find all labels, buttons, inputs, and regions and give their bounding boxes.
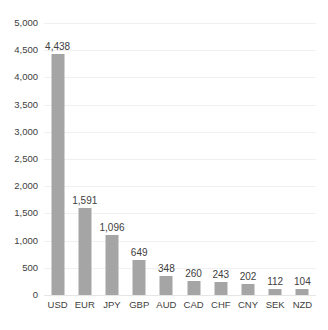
- y-axis-tick-label: 5,000: [0, 18, 38, 28]
- bar-rect: [242, 284, 255, 295]
- bar-item: 1,096: [99, 23, 125, 295]
- x-axis-tick-label: EUR: [72, 299, 98, 311]
- bar-item: 260: [181, 23, 207, 295]
- bar-value-label: 1,096: [99, 222, 124, 233]
- y-axis-tick-label: 500: [0, 263, 38, 273]
- bar-value-label: 202: [240, 271, 257, 282]
- x-axis-tick-label: CAD: [181, 299, 207, 311]
- x-axis-tick-label: JPY: [99, 299, 125, 311]
- bar-rect: [106, 235, 119, 295]
- bar-item: 649: [126, 23, 152, 295]
- bar-rect: [51, 54, 64, 295]
- x-axis-tick-label: NZD: [289, 299, 315, 311]
- bar-item: 4,438: [45, 23, 71, 295]
- bar-item: 202: [235, 23, 261, 295]
- x-axis-tick-label: SEK: [262, 299, 288, 311]
- bar-value-label: 649: [131, 247, 148, 258]
- plot-area: 4,4381,5911,096649348260243202112104: [44, 23, 316, 295]
- bar-item: 112: [262, 23, 288, 295]
- y-axis-tick-label: 0: [0, 290, 38, 300]
- y-axis-tick-label: 1,000: [0, 236, 38, 246]
- y-axis-tick-label: 3,500: [0, 100, 38, 110]
- y-axis-tick-label: 2,000: [0, 181, 38, 191]
- y-axis-tick-label: 4,500: [0, 45, 38, 55]
- bar-rect: [187, 281, 200, 295]
- bar-series: 4,4381,5911,096649348260243202112104: [44, 23, 316, 295]
- bar-rect: [214, 282, 227, 295]
- bar-value-label: 260: [185, 268, 202, 279]
- x-axis-tick-label: AUD: [153, 299, 179, 311]
- x-axis-tick-label: USD: [45, 299, 71, 311]
- bar-value-label: 1,591: [72, 195, 97, 206]
- bar-item: 104: [289, 23, 315, 295]
- y-axis-tick-label: 3,000: [0, 127, 38, 137]
- bar-value-label: 243: [212, 269, 229, 280]
- bar-value-label: 348: [158, 263, 175, 274]
- bar-rect: [133, 260, 146, 295]
- y-axis-tick-label: 2,500: [0, 154, 38, 164]
- x-axis-tick-label: CNY: [235, 299, 261, 311]
- bar-rect: [160, 276, 173, 295]
- x-axis-tick-label: GBP: [126, 299, 152, 311]
- bar-value-label: 4,438: [45, 41, 70, 52]
- gridline: [44, 295, 316, 296]
- bar-item: 1,591: [72, 23, 98, 295]
- bar-rect: [296, 289, 309, 295]
- bar-item: 348: [153, 23, 179, 295]
- bar-value-label: 112: [267, 276, 283, 287]
- x-axis-tick-label: CHF: [208, 299, 234, 311]
- y-axis-tick-label: 4,000: [0, 72, 38, 82]
- y-axis-tick-label: 1,500: [0, 208, 38, 218]
- bar-rect: [269, 289, 282, 295]
- bar-value-label: 104: [294, 276, 311, 287]
- bar-item: 243: [208, 23, 234, 295]
- bar-chart: 05001,0001,5002,0002,5003,0003,5004,0004…: [0, 0, 328, 330]
- bar-rect: [78, 208, 91, 295]
- x-axis: USDEURJPYGBPAUDCADCHFCNYSEKNZD: [44, 299, 316, 319]
